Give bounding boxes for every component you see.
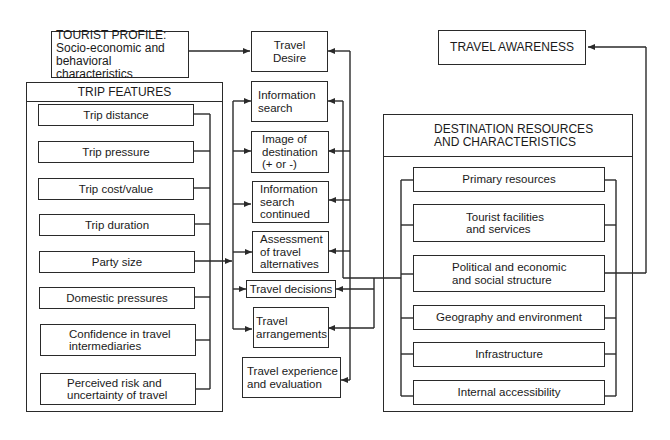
process-step-information-search-continued: Information search continued (252, 181, 329, 223)
travel-awareness-label: TRAVEL AWARENESS (450, 41, 574, 54)
trip-feature-item: Trip cost/value (38, 178, 194, 200)
travel-awareness-box: TRAVEL AWARENESS (438, 30, 586, 65)
trip-feature-label: Party size (92, 256, 143, 269)
process-step-label: Travel arrangements (256, 315, 327, 340)
process-step-label: Assessment of travel alternatives (260, 233, 323, 271)
destination-title: DESTINATION RESOURCES AND CHARACTERISTIC… (384, 115, 632, 157)
destination-item-label: Political and economic and social struct… (452, 261, 566, 286)
destination-title-text: DESTINATION RESOURCES AND CHARACTERISTIC… (434, 123, 593, 149)
trip-feature-item: Perceived risk and uncertainty of travel (40, 373, 196, 405)
destination-item: Internal accessibility (413, 380, 605, 405)
trip-feature-item: Party size (39, 251, 195, 273)
process-step-label: Travel decisions (250, 283, 333, 296)
destination-item: Tourist facilities and services (413, 204, 605, 242)
trip-feature-label: Perceived risk and uncertainty of travel (67, 377, 167, 402)
process-step-travel-desire: Travel Desire (251, 31, 328, 72)
process-step-label: Information search (258, 89, 316, 114)
process-step-assessment: Assessment of travel alternatives (252, 231, 329, 273)
trip-feature-item: Trip distance (38, 104, 194, 126)
trip-feature-label: Domestic pressures (66, 292, 168, 305)
process-step-travel-experience: Travel experience and evaluation (242, 357, 341, 398)
destination-item: Political and economic and social struct… (413, 255, 605, 292)
process-step-travel-decisions: Travel decisions (246, 280, 336, 298)
process-step-label: Travel Desire (273, 39, 306, 64)
trip-feature-item: Trip pressure (38, 141, 194, 163)
tourist-profile-box: TOURIST PROFILE: Socio-economic and beha… (51, 31, 189, 78)
destination-item-label: Geography and environment (436, 311, 582, 324)
trip-feature-label: Trip duration (85, 219, 149, 232)
process-step-travel-arrangements: Travel arrangements (253, 307, 329, 348)
process-step-label: Information search continued (260, 183, 318, 221)
destination-item: Primary resources (413, 167, 605, 192)
destination-item: Infrastructure (413, 342, 605, 367)
process-step-image-of-destination: Image of destination (+ or -) (251, 131, 329, 173)
tourist-profile-title: TOURIST PROFILE: (56, 29, 166, 42)
trip-features-frame: TRIP FEATURES (26, 82, 223, 412)
trip-feature-label: Trip pressure (82, 146, 149, 159)
process-step-label: Travel experience and evaluation (247, 365, 338, 390)
trip-feature-label: Confidence in travel intermediaries (69, 328, 171, 353)
destination-item-label: Infrastructure (475, 348, 543, 361)
trip-feature-label: Trip distance (83, 109, 148, 122)
trip-feature-item: Trip duration (39, 214, 195, 236)
destination-item-label: Internal accessibility (458, 386, 561, 399)
tourist-profile-subtitle: Socio-economic and behavioral characteri… (56, 42, 188, 81)
trip-feature-item: Domestic pressures (39, 287, 195, 309)
destination-item: Geography and environment (413, 305, 605, 330)
process-step-label: Image of destination (+ or -) (262, 133, 318, 171)
destination-item-label: Primary resources (462, 173, 555, 186)
trip-features-title: TRIP FEATURES (27, 83, 222, 102)
destination-item-label: Tourist facilities and services (466, 211, 544, 236)
trip-feature-item: Confidence in travel intermediaries (40, 324, 196, 356)
process-step-information-search: Information search (251, 81, 328, 122)
trip-feature-label: Trip cost/value (79, 183, 153, 196)
